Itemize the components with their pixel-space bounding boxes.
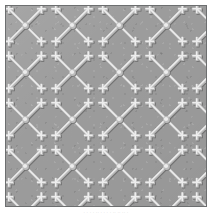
motif-r4-c2 — [98, 192, 141, 206]
motif-r4-c1 — [51, 192, 94, 206]
saltire-lattice-graphic — [6, 6, 206, 206]
motif-grid — [6, 6, 206, 206]
pattern-plate — [5, 5, 207, 207]
motif-r4-c4 — [192, 192, 206, 206]
motif-r3-c3 — [145, 145, 188, 188]
motif-r0-c0 — [6, 6, 48, 48]
motif-r2-c3 — [145, 98, 188, 141]
motif-r0-c3 — [145, 6, 188, 48]
motif-r1-c1 — [51, 51, 94, 94]
motif-r0-c1 — [51, 6, 94, 48]
motif-r0-c4 — [192, 6, 206, 48]
motif-r4-c3 — [145, 192, 188, 206]
motif-r4-c0 — [6, 192, 48, 206]
motif-r2-c4 — [192, 98, 206, 141]
figure-caption: · · · · ·· · · · · ·· ·· ·· · — [0, 209, 212, 216]
motif-r2-c2 — [98, 98, 141, 141]
motif-r0-c2 — [98, 6, 141, 48]
motif-r3-c4 — [192, 145, 206, 188]
motif-r3-c1 — [51, 145, 94, 188]
motif-r1-c2 — [98, 51, 141, 94]
motif-r1-c3 — [145, 51, 188, 94]
motif-r1-c4 — [192, 51, 206, 94]
motif-r3-c0 — [6, 145, 48, 188]
motif-r2-c1 — [51, 98, 94, 141]
motif-r1-c0 — [6, 51, 48, 94]
motif-r3-c2 — [98, 145, 141, 188]
pattern-figure: · · · · ·· · · · · ·· ·· ·· · — [0, 0, 212, 222]
motif-r2-c0 — [6, 98, 48, 141]
